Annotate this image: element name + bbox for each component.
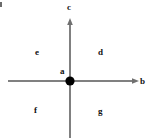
- arrow-up-icon: [67, 18, 73, 25]
- diagram-canvas: c b a e d f g: [0, 0, 153, 138]
- origin-label: a: [60, 67, 65, 76]
- horizontal-axis-label: b: [140, 77, 145, 86]
- region-label-upper-left: e: [35, 48, 39, 57]
- region-label-lower-right: g: [98, 107, 103, 116]
- edge-artifact: [0, 2, 2, 7]
- region-label-lower-left: f: [34, 106, 37, 115]
- origin-point: [65, 76, 74, 85]
- axes-diagram: [0, 0, 153, 138]
- arrow-right-icon: [132, 78, 139, 84]
- vertical-axis-label: c: [67, 3, 71, 12]
- region-label-upper-right: d: [98, 48, 103, 57]
